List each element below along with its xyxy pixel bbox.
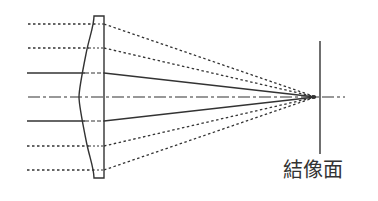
ray-3-refracted <box>104 73 316 97</box>
ray-1-refracted <box>104 24 316 97</box>
ray-4-refracted <box>104 97 316 121</box>
ray-2-refracted <box>104 48 316 97</box>
image-plane-label: 結像面 <box>283 154 343 183</box>
ray-5-refracted <box>104 97 316 146</box>
focal-point <box>312 95 316 99</box>
